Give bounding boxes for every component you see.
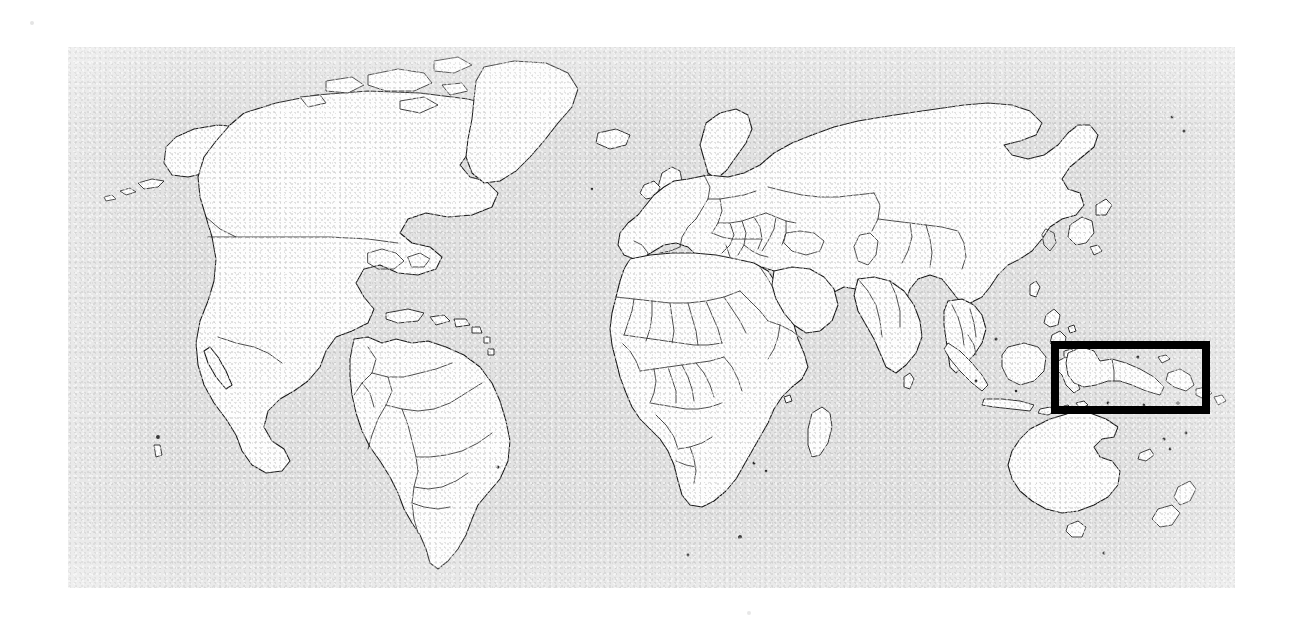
world-map-svg [68, 47, 1235, 588]
scan-artifact [747, 611, 751, 615]
region-south-america [350, 337, 510, 569]
world-map-plate [68, 47, 1235, 588]
scan-artifact [30, 21, 34, 25]
region-highlight-rectangle [1051, 341, 1210, 414]
figure-root [0, 0, 1292, 627]
region-oceania [1008, 413, 1196, 555]
